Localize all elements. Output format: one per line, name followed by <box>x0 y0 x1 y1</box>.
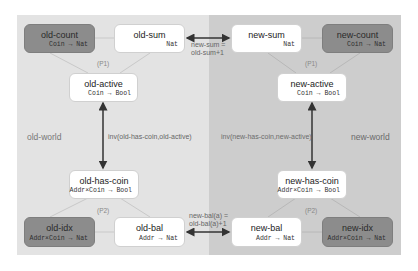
node-type: Addr×Coin → Nat <box>327 235 386 242</box>
node-type: Coin → Bool <box>88 90 131 97</box>
node-title: old-count <box>25 30 94 40</box>
sum-relation-line1: new-sum = <box>191 41 225 49</box>
new-invariant-label: inv(new-has-coin,new-active) <box>221 133 312 140</box>
new-p2-label: (P2) <box>305 207 317 214</box>
node-title: new-count <box>323 30 392 40</box>
old-p1-label: (P1) <box>97 60 109 67</box>
node-type: Addr×Coin → Nat <box>29 235 88 242</box>
bal-relation-line2: old-bal(a)+1 <box>189 220 228 228</box>
node-type: Addr → Nat <box>139 235 178 242</box>
node-type: Addr×Coin → Bool <box>70 187 132 194</box>
node-type: Coin → Bool <box>297 90 340 97</box>
old-p2-label: (P2) <box>97 207 109 214</box>
bal-relation-line1: new-bal(a) = <box>189 212 228 220</box>
node-title: new-sum <box>232 30 301 40</box>
node-new-bal: new-bal Addr → Nat <box>231 217 302 247</box>
node-type: Coin → Nat <box>347 41 386 48</box>
node-title: old-bal <box>115 223 184 233</box>
node-old-active: old-active Coin → Bool <box>69 73 138 102</box>
node-new-idx: new-idx Addr×Coin → Nat <box>322 217 393 247</box>
node-old-count: old-count Coin → Nat <box>24 24 95 53</box>
old-invariant-label: inv(old-has-coin,old-active) <box>108 133 192 140</box>
node-title: new-active <box>278 79 346 89</box>
sum-relation-line2: old-sum+1 <box>191 49 225 57</box>
node-title: new-has-coin <box>278 176 346 186</box>
sum-relation-label: new-sum = old-sum+1 <box>191 41 225 57</box>
node-title: old-active <box>70 79 137 89</box>
new-p1-label: (P1) <box>305 60 317 67</box>
node-title: new-bal <box>232 223 301 233</box>
node-type: Addr×Coin → Bool <box>278 187 340 194</box>
node-old-bal: old-bal Addr → Nat <box>114 217 185 247</box>
node-old-idx: old-idx Addr×Coin → Nat <box>24 217 95 247</box>
node-new-count: new-count Coin → Nat <box>322 24 393 53</box>
node-type: Nat <box>166 41 178 48</box>
node-title: old-has-coin <box>70 176 138 186</box>
node-title: new-idx <box>323 223 392 233</box>
node-new-has-coin: new-has-coin Addr×Coin → Bool <box>277 170 347 199</box>
node-title: old-idx <box>25 223 94 233</box>
node-old-sum: old-sum Nat <box>114 24 185 53</box>
node-type: Addr → Nat <box>256 235 295 242</box>
node-new-active: new-active Coin → Bool <box>277 73 347 102</box>
node-type: Nat <box>283 41 295 48</box>
node-type: Coin → Nat <box>49 41 88 48</box>
bal-relation-label: new-bal(a) = old-bal(a)+1 <box>189 212 228 228</box>
node-title: old-sum <box>115 30 184 40</box>
old-world-label: old-world <box>27 132 62 142</box>
node-old-has-coin: old-has-coin Addr×Coin → Bool <box>69 170 139 199</box>
new-world-label: new-world <box>351 132 390 142</box>
node-new-sum: new-sum Nat <box>231 24 302 53</box>
